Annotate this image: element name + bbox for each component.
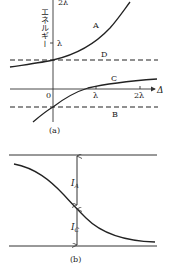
y-tick-label: λ <box>57 39 62 48</box>
intensity-curve <box>14 164 155 242</box>
caption-a: (a) <box>49 126 60 135</box>
label-IA: IA <box>70 178 80 189</box>
x-tick-label-1: λ <box>93 91 98 100</box>
label-B: B <box>112 110 118 119</box>
x-axis-label: Δ <box>156 85 164 95</box>
x-tick-label-2: 2λ <box>134 91 144 100</box>
curve-C <box>33 79 157 122</box>
panel-a: 2λ エネルギー λ Δ 0 λ 2λ D B A C (a) <box>10 0 164 135</box>
y-top-tick-label: 2λ <box>58 0 68 7</box>
label-D: D <box>101 50 107 59</box>
panel-b: IA IC (b) <box>9 155 157 264</box>
curve-A <box>10 2 130 67</box>
origin-label: 0 <box>46 91 51 100</box>
y-axis-label: エネルギー <box>40 8 49 48</box>
energy-level-diagram: 2λ エネルギー λ Δ 0 λ 2λ D B A C (a) <box>0 0 169 277</box>
caption-b: (b) <box>70 255 81 264</box>
label-A: A <box>92 21 99 30</box>
label-C: C <box>111 74 117 83</box>
label-IC: IC <box>70 222 80 233</box>
